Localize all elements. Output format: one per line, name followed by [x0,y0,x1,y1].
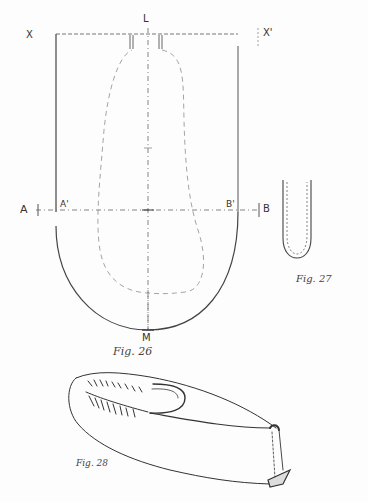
label-a-prime: A' [60,200,69,209]
label-b: B [263,204,270,214]
fig27-capsule [283,150,311,258]
toe-tab [268,470,290,487]
fig26-caption: Fig. 26 [113,346,152,357]
fig26-pattern [36,28,260,330]
gather-line [86,392,148,412]
rounded-bottom-curve [56,212,238,330]
label-x-prime: X' [263,28,273,38]
label-l: L [143,14,149,24]
label-m: M [142,333,151,343]
capsule-inner-dashed [287,182,307,254]
fig28-slipper [69,373,290,487]
slit-left [130,35,133,49]
label-b-prime: B' [226,200,235,209]
sole-outline-dashed [98,50,204,294]
toe-stitch [272,432,275,478]
slipper-opening-inner [152,389,178,398]
fig27-caption: Fig. 27 [296,274,332,284]
label-a: A [20,204,28,215]
slit-right [159,35,162,49]
illustration-canvas [0,0,368,502]
label-x: X [26,30,33,40]
slipper-bottom-edge [69,378,270,484]
slipper-opening-lower [150,413,270,428]
document-page: L X X' A A' B' B M Fig. 26 Fig. 27 Fig. … [0,0,368,502]
toe-seam [279,430,283,470]
gather-stitches-top [88,380,142,392]
slipper-opening-curl [150,384,185,413]
toe-roll [270,425,279,430]
fig28-caption: Fig. 28 [76,459,108,468]
